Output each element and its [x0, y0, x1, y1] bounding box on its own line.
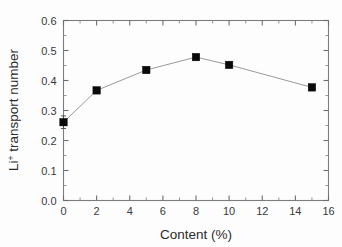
line-chart-canvas: 0246810121416 0.00.10.20.30.40.50.6 Cont… — [0, 0, 342, 247]
data-point-marker — [192, 53, 199, 60]
x-tick-label: 6 — [160, 205, 166, 217]
y-tick-label: 0.1 — [41, 165, 56, 177]
data-point-marker — [93, 87, 100, 94]
y-axis-title-rest: transport number — [6, 48, 21, 155]
x-tick-label: 10 — [223, 205, 235, 217]
y-tick-label: 0.4 — [41, 75, 56, 87]
y-tick-label: 0.2 — [41, 135, 56, 147]
data-point-marker — [225, 61, 232, 68]
y-axis-title: Li+ transport number — [6, 48, 21, 171]
x-axis-title: Content (%) — [160, 227, 232, 242]
x-tick-label: 0 — [60, 205, 66, 217]
y-tick-label: 0.0 — [41, 195, 56, 207]
x-tick-label: 12 — [256, 205, 268, 217]
x-tick-label: 8 — [193, 205, 199, 217]
x-tick-label: 14 — [289, 205, 301, 217]
y-tick-label: 0.3 — [41, 105, 56, 117]
data-point-marker — [308, 84, 315, 91]
svg-text:Li+ transport number: Li+ transport number — [6, 48, 21, 171]
y-axis-title-base: Li — [6, 161, 21, 172]
data-point-marker — [143, 66, 150, 73]
x-tick-label: 4 — [127, 205, 133, 217]
y-tick-label: 0.6 — [41, 15, 56, 27]
data-point-marker — [60, 119, 67, 126]
y-tick-label: 0.5 — [41, 45, 56, 57]
x-tick-label: 16 — [322, 205, 334, 217]
chart-figure: 0246810121416 0.00.10.20.30.40.50.6 Cont… — [0, 0, 342, 247]
x-tick-label: 2 — [94, 205, 100, 217]
